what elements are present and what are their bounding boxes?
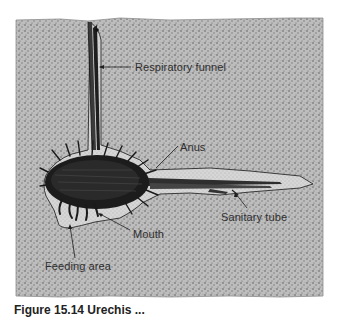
figure-caption: Figure 15.14 Urechis ...	[14, 304, 145, 316]
label-sanitary-tube: Sanitary tube	[221, 212, 287, 223]
label-respiratory-funnel: Respiratory funnel	[135, 62, 226, 73]
label-anus: Anus	[180, 142, 205, 153]
label-mouth: Mouth	[133, 229, 164, 240]
label-feeding-area: Feeding area	[45, 261, 111, 272]
sediment-block	[16, 18, 323, 297]
